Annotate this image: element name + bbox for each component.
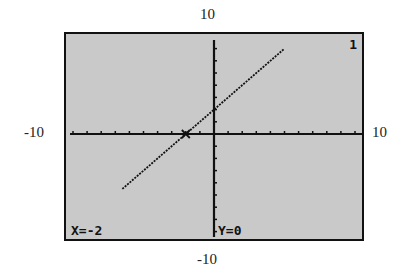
calculator-screen: X=-2 Y=0 1 <box>64 32 364 241</box>
trace-x-readout: X=-2 <box>71 223 102 238</box>
trace-y-readout: Y=0 <box>218 223 241 238</box>
y-max-label: 10 <box>200 6 215 23</box>
graph-plot <box>66 34 362 239</box>
y-min-label: -10 <box>197 251 217 268</box>
plot-number-indicator: 1 <box>349 37 357 52</box>
series-line <box>122 49 284 189</box>
x-min-label: -10 <box>24 124 44 141</box>
x-max-label: 10 <box>372 124 387 141</box>
